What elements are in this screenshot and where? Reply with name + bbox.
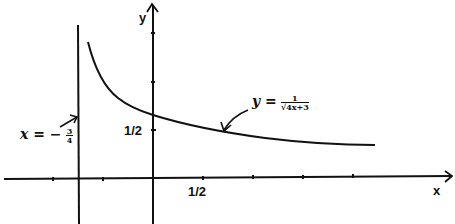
asymptote-fraction-denominator: 4 [67, 136, 73, 144]
y-axis-label: y [139, 11, 146, 24]
asymptote-fraction: 3 4 [66, 127, 74, 145]
x-axis-label: x [433, 184, 440, 197]
function-equation-lhs: y = [252, 93, 277, 109]
function-fraction: 1 √4x+3 [281, 94, 309, 112]
y-tick-label-half: 1/2 [124, 124, 142, 137]
graph-canvas [0, 0, 455, 224]
x-axis [4, 176, 452, 179]
function-fraction-denominator: √4x+3 [281, 102, 309, 111]
asymptote-equation-lhs: x = − [20, 126, 62, 142]
function-equation: y = 1 √4x+3 [252, 94, 309, 112]
asymptote-line [78, 25, 79, 224]
function-fraction-numerator: 1 [291, 94, 299, 102]
x-tick-label-half: 1/2 [188, 185, 206, 198]
asymptote-equation: x = − 3 4 [20, 127, 73, 145]
